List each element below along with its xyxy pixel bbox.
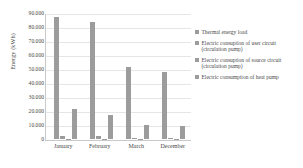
legend-swatch-icon [195,41,199,45]
legend-item[interactable]: Electric consumption of heat pump [195,74,301,80]
y-axis-tick-label: 10.000 [2,123,44,129]
bar-group [47,14,83,139]
bar [180,126,185,139]
bar [126,67,131,139]
y-axis-tick-label: 20.000 [2,109,44,115]
y-axis-tick-label: 90.000 [2,11,44,17]
legend-item-label: Electric consuption of user circuit (cir… [202,40,302,53]
y-axis-tick-label: 60.000 [2,53,44,59]
legend-item-label: Thermal energy load [202,29,248,35]
legend-item[interactable]: Electric consuption of user circuit (cir… [195,40,301,53]
bar-chart: Energy (kWh) 010.00020.00030.00040.00050… [0,0,303,168]
x-axis-tick-label: March [118,143,155,150]
bar [144,125,149,139]
legend-item-label: Electric consuption of source circuit (c… [202,57,302,70]
legend-swatch-icon [195,75,199,79]
bar [132,138,137,139]
y-axis-tick-label: 70.000 [2,39,44,45]
bar [60,136,65,139]
bar [168,138,173,139]
bar [162,72,167,139]
legend-swatch-icon [195,30,199,34]
y-axis-tick-label: 50.000 [2,67,44,73]
legend-swatch-icon [195,58,199,62]
plot-area: 010.00020.00030.00040.00050.00060.00070.… [45,14,191,141]
y-axis-tick-label: 40.000 [2,81,44,87]
bar [96,136,101,139]
y-axis-tick-label: 0 [2,137,44,143]
x-axis-tick-label: December [155,143,192,150]
bar [72,109,77,139]
legend-item[interactable]: Electric consuption of source circuit (c… [195,57,301,70]
chart-legend: Thermal energy loadElectric consuption o… [195,29,301,85]
bar-group [155,14,191,139]
x-axis-tick-label: January [45,143,82,150]
bar [108,115,113,139]
x-axis-tick-label: February [82,143,119,150]
bar-group [119,14,155,139]
bar-group [83,14,119,139]
legend-item-label: Electric consumption of heat pump [202,74,279,80]
y-axis-tick-label: 80.000 [2,25,44,31]
y-axis-tick-label: 30.000 [2,95,44,101]
bar [90,22,95,139]
bar-groups [47,14,191,139]
legend-item[interactable]: Thermal energy load [195,29,301,35]
x-axis-labels: JanuaryFebruaryMarchDecember [45,143,191,150]
bar [54,17,59,139]
